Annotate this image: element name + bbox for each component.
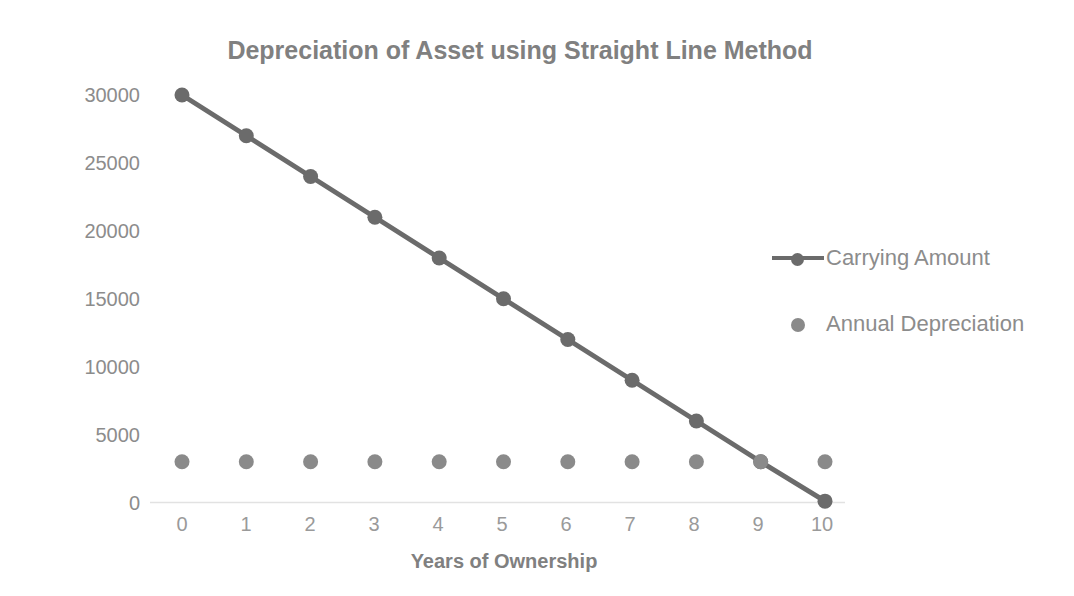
- x-axis-tick-label: 9: [738, 513, 778, 536]
- data-point-marker: [753, 454, 768, 469]
- data-point-marker: [560, 454, 575, 469]
- data-point-marker: [432, 251, 447, 266]
- legend-line-marker-icon: [772, 249, 824, 267]
- data-point-marker: [818, 454, 833, 469]
- x-axis-tick-label: 10: [802, 513, 842, 536]
- series-annual-depreciation-markers: [175, 454, 833, 469]
- data-point-marker: [239, 454, 254, 469]
- x-axis-tick-label: 1: [226, 513, 266, 536]
- chart-container: Depreciation of Asset using Straight Lin…: [0, 0, 1074, 596]
- legend-dot-marker-icon: [772, 315, 824, 333]
- x-axis-title: Years of Ownership: [404, 550, 604, 573]
- data-point-marker: [689, 414, 704, 429]
- x-axis-tick-label: 6: [546, 513, 586, 536]
- x-axis-tick-label: 4: [418, 513, 458, 536]
- legend-label: Carrying Amount: [826, 245, 990, 271]
- data-point-marker: [239, 128, 254, 143]
- plot-area: [0, 0, 1074, 596]
- data-point-marker: [625, 373, 640, 388]
- x-axis-tick-label: 8: [674, 513, 714, 536]
- data-point-marker: [175, 454, 190, 469]
- legend-item-annual-depreciation[interactable]: Annual Depreciation: [772, 311, 1024, 337]
- data-point-marker: [175, 88, 190, 103]
- x-axis-tick-label: 7: [610, 513, 650, 536]
- data-point-marker: [625, 454, 640, 469]
- data-point-marker: [496, 291, 511, 306]
- x-axis-tick-label: 3: [354, 513, 394, 536]
- data-point-marker: [303, 454, 318, 469]
- data-point-marker: [689, 454, 704, 469]
- x-axis-tick-label: 2: [290, 513, 330, 536]
- data-point-marker: [560, 332, 575, 347]
- x-axis-tick-label: 0: [162, 513, 202, 536]
- data-point-marker: [818, 494, 833, 509]
- data-point-marker: [367, 454, 382, 469]
- data-point-marker: [303, 169, 318, 184]
- x-axis-tick-label: 5: [482, 513, 522, 536]
- data-point-marker: [367, 210, 382, 225]
- data-point-marker: [432, 454, 447, 469]
- legend-item-carrying-amount[interactable]: Carrying Amount: [772, 245, 990, 271]
- legend-label: Annual Depreciation: [826, 311, 1024, 337]
- data-point-marker: [496, 454, 511, 469]
